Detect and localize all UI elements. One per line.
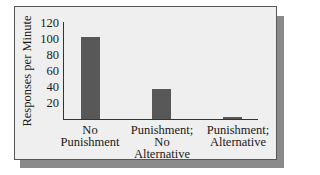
x-axis-line	[63, 119, 258, 120]
y-tick-60: 60	[31, 65, 59, 77]
y-tick-80: 80	[31, 49, 59, 61]
bar-no-punishment	[81, 37, 100, 119]
bar-punishment-no-alternative	[152, 89, 171, 119]
y-tick-120: 120	[31, 17, 59, 29]
y-tick-20: 20	[31, 97, 59, 109]
y-tick-100: 100	[31, 33, 59, 45]
x-label-punishment-alternative: Punishment; Alternative	[193, 124, 283, 148]
y-axis-line	[63, 22, 64, 120]
y-tick-40: 40	[31, 81, 59, 93]
